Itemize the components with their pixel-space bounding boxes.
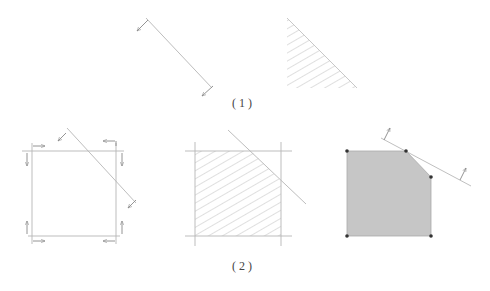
part2-feasible-polygon <box>345 128 471 238</box>
arrow-icon <box>202 86 213 96</box>
arrow-icon <box>384 128 390 140</box>
part1-hatched-triangle <box>287 18 357 88</box>
arrow-icon <box>460 168 466 180</box>
arrow-icon <box>137 20 148 31</box>
vertex-point <box>345 234 349 238</box>
vertex-point <box>429 234 433 238</box>
part2-label: (2) <box>232 259 255 274</box>
part2-constraint-lines <box>22 128 136 244</box>
diagram-canvas <box>0 0 490 291</box>
vertex-point <box>404 149 408 153</box>
part2-intersection-region <box>185 130 306 246</box>
part1-label: (1) <box>232 96 255 111</box>
vertex-point <box>345 149 349 153</box>
part2-inward-arrows <box>27 133 136 241</box>
part1-halfplane-line <box>137 18 213 96</box>
vertex-point <box>429 175 433 179</box>
